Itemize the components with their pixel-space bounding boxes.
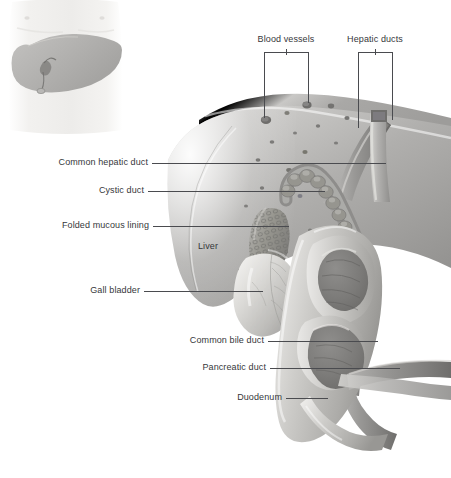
label-common-hepatic-duct: Common hepatic duct: [59, 157, 148, 168]
label-blood-vessels: Blood vessels: [258, 34, 315, 45]
label-duodenum: Duodenum: [237, 392, 282, 403]
label-folded-mucous-lining: Folded mucous lining: [62, 220, 149, 231]
label-pancreatic-duct: Pancreatic duct: [202, 362, 266, 373]
label-common-bile-duct: Common bile duct: [190, 335, 264, 346]
torso-inset: [8, 0, 122, 134]
anatomy-artwork: [0, 0, 451, 478]
label-liver: Liver: [198, 241, 218, 252]
label-gall-bladder: Gall bladder: [90, 285, 140, 296]
illustration-figure: Blood vessels Hepatic ducts Common hepat…: [0, 0, 451, 478]
duodenum: [275, 225, 388, 451]
label-cystic-duct: Cystic duct: [99, 185, 144, 196]
label-hepatic-ducts: Hepatic ducts: [347, 34, 403, 45]
